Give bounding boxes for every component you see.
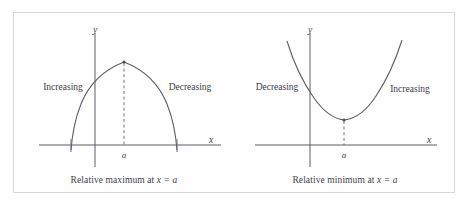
relative-maximum-plot: x y a Increasing Decreasing (13, 12, 235, 193)
x-value-label-a: a (342, 150, 347, 160)
panel-relative-minimum: x y a Decreasing Increasing Relative min… (235, 12, 455, 193)
panel-relative-maximum: x y a Increasing Decreasing Relative max… (13, 12, 235, 193)
parabola-curve-min (287, 40, 402, 120)
caption-relative-maximum: Relative maximum at x = a (13, 175, 235, 185)
caption-text: Relative maximum at (71, 175, 157, 185)
relative-minimum-plot: x y a Decreasing Increasing (235, 12, 455, 193)
region-label-decreasing: Decreasing (169, 82, 212, 92)
caption-math: x = a (377, 175, 398, 185)
x-axis-label: x (208, 135, 214, 145)
region-label-increasing: Increasing (390, 84, 430, 94)
x-value-label-a: a (122, 150, 127, 160)
y-axis-label: y (92, 25, 98, 35)
caption-relative-minimum: Relative minimum at x = a (235, 175, 455, 185)
vertex-point-marker (123, 61, 126, 64)
region-label-decreasing: Decreasing (256, 82, 299, 92)
figure-container: x y a Increasing Decreasing Relative max… (0, 0, 470, 206)
y-axis-label: y (307, 25, 313, 35)
x-axis-label: x (426, 135, 432, 145)
region-label-increasing: Increasing (43, 82, 83, 92)
caption-math: x = a (157, 175, 178, 185)
vertex-point-marker (343, 119, 346, 122)
caption-text: Relative minimum at (292, 175, 377, 185)
